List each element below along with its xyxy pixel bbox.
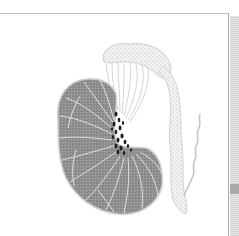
testis-body bbox=[58, 79, 163, 214]
testis-illustration bbox=[0, 0, 239, 236]
epididymis-body bbox=[158, 66, 187, 214]
vas-deferens bbox=[184, 114, 200, 196]
